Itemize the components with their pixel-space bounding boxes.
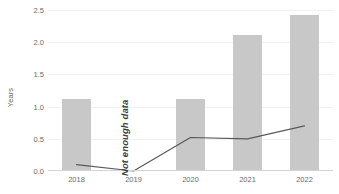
x-axis-tick-labels: 20182019202020212022	[48, 172, 333, 192]
y-axis-tick-labels: 0.00.51.01.52.02.5	[22, 0, 46, 194]
y-axis-tick-label: 1.5	[34, 70, 44, 79]
x-axis-baseline	[48, 170, 333, 171]
x-axis-tick-label: 2019	[125, 175, 142, 184]
y-axis-tick-label: 2.0	[34, 38, 44, 47]
x-axis-tick-label: 2020	[182, 175, 199, 184]
y-axis-tick-label: 1.0	[34, 102, 44, 111]
x-axis-tick-label: 2018	[68, 175, 85, 184]
y-axis-tick-label: 0.5	[34, 134, 44, 143]
line-series-path	[77, 126, 305, 171]
y-axis-title: Years	[0, 0, 22, 194]
plot-area: Not enough data	[48, 10, 333, 171]
x-axis-tick-label: 2021	[239, 175, 256, 184]
y-axis-tick-label: 0.0	[34, 167, 44, 176]
x-axis-tick-label: 2022	[296, 175, 313, 184]
y-axis-tick-label: 2.5	[34, 6, 44, 15]
y-axis-title-label: Years	[7, 87, 16, 106]
line-series	[48, 10, 333, 171]
combo-bar-line-chart: Years 0.00.51.01.52.02.5 Not enough data…	[0, 0, 339, 194]
